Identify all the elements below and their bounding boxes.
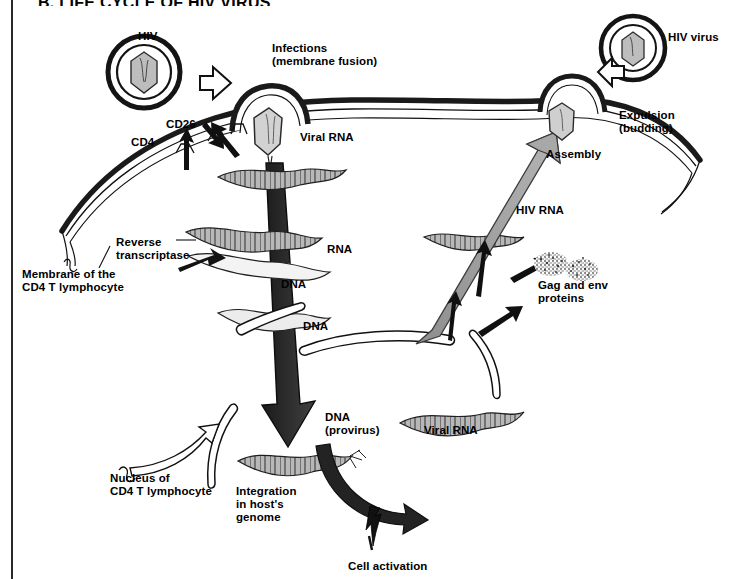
cell-activation-curved-arrow <box>316 444 428 534</box>
membrane-tail-right <box>661 160 700 214</box>
label-dna-lower: DNA <box>303 320 328 333</box>
label-assembly: Assembly <box>546 148 601 161</box>
page-left-rule <box>11 0 13 579</box>
label-cd26: CD26 <box>166 118 196 131</box>
label-rna: RNA <box>327 243 352 256</box>
entering-capsid <box>254 108 282 180</box>
cell-membrane-bilayer <box>62 99 700 242</box>
label-reverse-transcriptase: Reverse transcriptase <box>116 236 190 262</box>
hiv-virion-left <box>108 36 180 108</box>
label-viral-rna-bottom: Viral RNA <box>424 424 478 437</box>
label-expulsion: Expulsion (budding) <box>619 109 675 135</box>
label-membrane: Membrane of the CD4 T lymphocyte <box>22 268 124 294</box>
label-infection: Infections (membrane fusion) <box>272 42 377 68</box>
label-dna-upper: DNA <box>281 278 306 291</box>
label-hiv-rna: HIV RNA <box>516 204 564 217</box>
hiv-virion-right <box>601 16 665 80</box>
label-hiv-right: HIV virus <box>668 31 719 44</box>
label-cell-activation: Cell activation <box>348 560 427 573</box>
protein-transport-arrows <box>447 240 551 341</box>
membrane-tail-left <box>62 231 77 272</box>
reverse-transcription-down-arrow <box>262 163 315 447</box>
label-nucleus: Nucleus of CD4 T lymphocyte <box>110 472 212 498</box>
label-integration: Integration in host's genome <box>236 485 297 524</box>
membrane-budding-pore <box>540 76 605 115</box>
label-dna-provirus: DNA (provirus) <box>325 411 380 437</box>
lightning-bolt-activation <box>366 506 381 550</box>
label-gag-env: Gag and env proteins <box>538 279 608 305</box>
figure-title: B. LIFE CYCLE OF HIV VIRUS <box>38 0 271 6</box>
label-hiv-left: HIV <box>138 30 157 43</box>
label-viral-rna-top: Viral RNA <box>300 131 354 144</box>
membrane-fusion-pore <box>232 86 308 133</box>
gag-env-protein-clusters <box>534 252 598 281</box>
assembling-capsid <box>549 103 574 140</box>
label-cd4: CD4 <box>131 136 154 149</box>
hollow-arrow-entry <box>200 67 231 99</box>
assembly-up-arrow <box>416 132 560 344</box>
hollow-arrow-exit <box>598 58 624 86</box>
hiv-life-cycle-figure: B. LIFE CYCLE OF HIV VIRUS <box>0 0 731 579</box>
nucleus-outline <box>208 303 500 488</box>
